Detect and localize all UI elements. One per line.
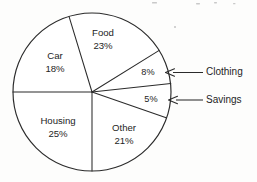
- slice-label-clothing-value: 8%: [141, 67, 154, 77]
- callout-clothing: Clothing: [166, 66, 243, 77]
- slice-label-car-value: 18%: [45, 63, 65, 74]
- scan-artifacts: [152, 2, 236, 28]
- slice-label-other-value: 21%: [114, 135, 134, 146]
- slice-label-food-value: 23%: [93, 40, 113, 51]
- slice-label-savings-value: 5%: [144, 94, 157, 104]
- pie-chart-figure: Food 23% Car 18% Housing 25% Other 21% 8…: [0, 0, 257, 182]
- slice-label-food-name: Food: [92, 27, 114, 38]
- callout-clothing-label: Clothing: [206, 66, 243, 77]
- pie-chart-svg: Food 23% Car 18% Housing 25% Other 21% 8…: [0, 0, 257, 182]
- slice-label-housing-name: Housing: [40, 115, 75, 126]
- callout-savings: Savings: [169, 94, 242, 105]
- slice-label-car-name: Car: [47, 50, 63, 61]
- slice-label-housing-value: 25%: [48, 128, 68, 139]
- slice-label-other-name: Other: [112, 122, 137, 133]
- callout-savings-label: Savings: [206, 94, 242, 105]
